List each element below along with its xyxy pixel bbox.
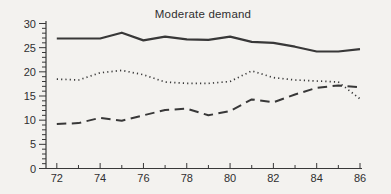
y-tick-label: 30 [24,18,36,30]
x-tick-label: 74 [94,172,106,184]
solid-line [57,33,360,52]
x-tick-label: 72 [51,172,63,184]
dotted-line [57,70,360,99]
x-tick-label: 82 [267,172,279,184]
y-tick-label: 0 [30,163,36,175]
y-tick-label: 5 [30,138,36,150]
y-tick-label: 20 [24,66,36,78]
x-tick-label: 78 [181,172,193,184]
y-tick-label: 10 [24,114,36,126]
scanned-chart-page: Moderate demand 051015202530727476788082… [0,0,391,194]
moderate-demand-line-chart: 0510152025307274767880828486 [0,0,391,194]
dashed-line [57,85,360,124]
y-tick-label: 25 [24,42,36,54]
y-tick-label: 15 [24,90,36,102]
x-tick-label: 80 [224,172,236,184]
x-tick-label: 86 [354,172,366,184]
x-tick-label: 84 [311,172,323,184]
x-tick-label: 76 [137,172,149,184]
